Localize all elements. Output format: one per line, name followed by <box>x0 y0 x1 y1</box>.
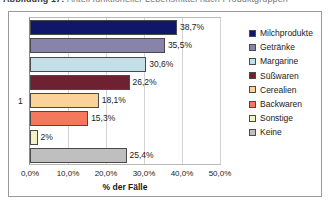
x-axis-title: % der Fälle <box>29 182 221 192</box>
bar-row: 26,2% <box>30 75 220 90</box>
legend-item-label: Süßwaren <box>260 71 299 81</box>
category-axis-label: 1 <box>18 96 23 106</box>
figure-caption-prefix: Abbildung 17: <box>3 0 64 4</box>
x-tick-label: 40,0% <box>171 169 194 178</box>
legend-swatch-icon <box>249 58 256 65</box>
gridline <box>220 18 221 164</box>
x-tick-label: 20,0% <box>95 169 118 178</box>
bar-value-label: 30,6% <box>149 59 173 69</box>
legend-item[interactable]: Margarine <box>249 54 315 68</box>
bar-row: 25,4% <box>30 148 220 163</box>
bar-value-label: 18,1% <box>102 95 126 105</box>
bar-sonstige <box>30 130 38 145</box>
plot-area: 38,7%35,5%30,6%26,2%18,1%15,3%2%25,4% <box>29 17 221 165</box>
bar-row: 18,1% <box>30 93 220 108</box>
bar-row: 35,5% <box>30 38 220 53</box>
bar-value-label: 2% <box>41 132 53 142</box>
legend-swatch-icon <box>249 129 256 136</box>
legend-item[interactable]: Cerealien <box>249 83 315 97</box>
bar-row: 38,7% <box>30 20 220 35</box>
bar-row: 30,6% <box>30 57 220 72</box>
x-tick-label: 50,0% <box>209 169 232 178</box>
legend-swatch-icon <box>249 115 256 122</box>
bar-row: 2% <box>30 130 220 145</box>
legend-swatch-icon <box>249 30 256 37</box>
legend-item-label: Keine <box>260 127 282 137</box>
legend-item[interactable]: Milchprodukte <box>249 26 315 40</box>
legend-item[interactable]: Süßwaren <box>249 69 315 83</box>
bar-milchprodukte <box>30 20 177 35</box>
bar-value-label: 26,2% <box>133 77 157 87</box>
legend-swatch-icon <box>249 72 256 79</box>
bar-value-label: 25,4% <box>130 150 154 160</box>
legend-item-label: Margarine <box>260 56 298 66</box>
legend-item[interactable]: Backwaren <box>249 97 315 111</box>
x-tick-label: 30,0% <box>133 169 156 178</box>
legend-item[interactable]: Sonstige <box>249 111 315 125</box>
bar-margarine <box>30 57 146 72</box>
bar-backwaren <box>30 111 88 126</box>
bar-value-label: 15,3% <box>91 113 115 123</box>
bar-cerealien <box>30 93 99 108</box>
bar-keine <box>30 148 127 163</box>
legend-item-label: Sonstige <box>260 113 293 123</box>
bar-getränke <box>30 38 165 53</box>
chart-container: 38,7%35,5%30,6%26,2%18,1%15,3%2%25,4% 1 … <box>8 11 322 197</box>
figure-caption-rest: Anteil funktioneller Lebensmittel nach P… <box>67 0 288 4</box>
legend-item-label: Milchprodukte <box>260 28 313 38</box>
legend-swatch-icon <box>249 44 256 51</box>
bar-value-label: 35,5% <box>168 40 192 50</box>
chart-legend: MilchprodukteGetränkeMargarineSüßwarenCe… <box>249 26 315 140</box>
x-tick-label: 0,0% <box>21 169 39 178</box>
legend-item-label: Getränke <box>260 42 295 52</box>
legend-item[interactable]: Keine <box>249 125 315 139</box>
legend-swatch-icon <box>249 101 256 108</box>
legend-item[interactable]: Getränke <box>249 40 315 54</box>
bar-süßwaren <box>30 75 130 90</box>
legend-item-label: Cerealien <box>260 85 296 95</box>
x-tick-label: 10,0% <box>57 169 80 178</box>
bar-series: 38,7%35,5%30,6%26,2%18,1%15,3%2%25,4% <box>30 18 220 164</box>
figure-caption: Abbildung 17: Anteil funktioneller Leben… <box>0 0 332 9</box>
bar-row: 15,3% <box>30 111 220 126</box>
bar-value-label: 38,7% <box>180 22 204 32</box>
legend-item-label: Backwaren <box>260 99 302 109</box>
legend-swatch-icon <box>249 86 256 93</box>
figure-caption-text: Abbildung 17: Anteil funktioneller Leben… <box>3 0 288 4</box>
